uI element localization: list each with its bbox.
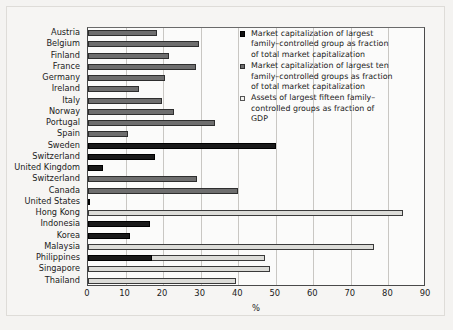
y-label-korea: Korea — [0, 230, 84, 241]
x-axis-title: % — [87, 303, 425, 313]
y-label-belgium: Belgium — [0, 38, 84, 49]
x-tick-20: 20 — [157, 288, 168, 298]
legend-text-line: GDP — [251, 114, 420, 124]
bar-thailand-s2 — [88, 278, 236, 284]
bar-canada-s1 — [88, 188, 238, 194]
legend-text-line: Market capitalization of largest ten — [251, 61, 420, 71]
legend-text-line: Market capitalization of largest — [251, 29, 420, 39]
bar-spain-s1 — [88, 131, 128, 137]
legend-text-line: family–controlled groups as fraction — [251, 72, 420, 82]
bar-sweden-s0 — [88, 143, 276, 149]
legend-swatch-icon-1 — [240, 31, 245, 36]
bar-portugal-s1 — [88, 120, 215, 126]
bar-philippines-s0 — [88, 255, 152, 261]
legend-item-2: Market capitalization of largest tenfami… — [240, 61, 420, 92]
y-label-sweden: Sweden — [0, 140, 84, 151]
y-label-austria: Austria — [0, 27, 84, 38]
x-axis-tick-labels: 0102030405060708090 — [87, 288, 425, 302]
bar-row — [88, 174, 424, 185]
legend-text-line: family–controlled group as fraction — [251, 39, 420, 49]
bar-row — [88, 264, 424, 275]
bar-row — [88, 242, 424, 253]
bar-row — [88, 219, 424, 230]
x-tick-50: 50 — [269, 288, 280, 298]
y-label-switzerland: Switzerland — [0, 151, 84, 162]
bar-belgium-s1 — [88, 41, 199, 47]
bar-row — [88, 276, 424, 287]
bar-row — [88, 253, 424, 264]
y-label-italy: Italy — [0, 95, 84, 106]
y-label-spain: Spain — [0, 128, 84, 139]
y-label-germany: Germany — [0, 72, 84, 83]
bar-hong-kong-s2 — [88, 210, 403, 216]
x-tick-0: 0 — [84, 288, 89, 298]
y-label-united-kingdom: United Kingdom — [0, 162, 84, 173]
bar-germany-s1 — [88, 75, 165, 81]
bar-ireland-s1 — [88, 86, 139, 92]
bar-italy-s1 — [88, 98, 162, 104]
bar-switzerland-s0 — [88, 154, 155, 160]
bar-austria-s1 — [88, 30, 157, 36]
y-label-canada: Canada — [0, 185, 84, 196]
x-tick-70: 70 — [345, 288, 356, 298]
y-label-switzerland: Switzerland — [0, 173, 84, 184]
legend-swatch-icon-2 — [240, 64, 245, 69]
bar-row — [88, 231, 424, 242]
bar-united-kingdom-s0 — [88, 165, 103, 171]
y-label-malaysia: Malaysia — [0, 241, 84, 252]
y-label-norway: Norway — [0, 106, 84, 117]
y-label-philippines: Philippines — [0, 252, 84, 263]
legend-text-line: of total market capitalization — [251, 82, 420, 92]
figure: AustriaBelgiumFinlandFranceGermanyIrelan… — [0, 0, 453, 330]
bar-singapore-s2 — [88, 266, 270, 272]
bar-row — [88, 163, 424, 174]
bar-indonesia-s0 — [88, 221, 150, 227]
bar-row — [88, 197, 424, 208]
bar-row — [88, 186, 424, 197]
x-tick-60: 60 — [307, 288, 318, 298]
bar-malaysia-s2 — [88, 244, 374, 250]
bar-norway-s1 — [88, 109, 174, 115]
bar-korea-s0 — [88, 233, 130, 239]
x-tick-30: 30 — [194, 288, 205, 298]
y-label-france: France — [0, 61, 84, 72]
legend-item-3: Assets of largest fifteen family–control… — [240, 93, 420, 124]
bar-finland-s1 — [88, 53, 169, 59]
x-tick-40: 40 — [232, 288, 243, 298]
y-label-portugal: Portugal — [0, 117, 84, 128]
y-label-united-states: United States — [0, 196, 84, 207]
y-label-ireland: Ireland — [0, 83, 84, 94]
legend-item-1: Market capitalization of largestfamily–c… — [240, 29, 420, 60]
x-tick-80: 80 — [382, 288, 393, 298]
legend: Market capitalization of largestfamily–c… — [240, 29, 420, 126]
y-axis-category-labels: AustriaBelgiumFinlandFranceGermanyIrelan… — [0, 27, 84, 286]
bar-row — [88, 208, 424, 219]
y-label-finland: Finland — [0, 50, 84, 61]
legend-text-line: Assets of largest fifteen family– — [251, 93, 420, 103]
bar-row — [88, 129, 424, 140]
x-tick-90: 90 — [420, 288, 431, 298]
legend-swatch-icon-3 — [240, 96, 245, 101]
legend-text-line: controlled groups as fraction of — [251, 104, 420, 114]
y-label-hong-kong: Hong Kong — [0, 207, 84, 218]
bar-united-states-s0 — [88, 199, 90, 205]
x-tick-10: 10 — [119, 288, 130, 298]
y-label-indonesia: Indonesia — [0, 218, 84, 229]
bar-france-s1 — [88, 64, 196, 70]
bar-row — [88, 152, 424, 163]
legend-text-line: of total market capitalization — [251, 50, 420, 60]
y-label-thailand: Thailand — [0, 275, 84, 286]
bar-switzerland-s1 — [88, 176, 197, 182]
y-label-singapore: Singapore — [0, 263, 84, 274]
bar-row — [88, 141, 424, 152]
